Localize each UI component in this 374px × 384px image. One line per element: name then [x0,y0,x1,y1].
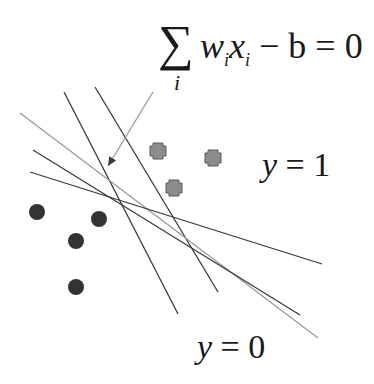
summation-index: i [174,70,180,96]
positive-point [166,180,182,196]
arrow-head-icon [108,156,116,166]
separating-hyperplanes [20,87,322,338]
weight-symbol: w [200,26,224,66]
positive-point [205,150,221,166]
arrow-shaft [108,92,153,166]
negative-point [68,279,84,295]
class-variable: y [262,146,277,183]
equation-body: wixi − b = 0 [200,26,363,80]
class-variable: y [197,328,212,365]
variable-symbol: x [229,26,245,66]
summation-symbol: ∑ [158,18,194,68]
positive-class-points [150,143,221,196]
negative-point [68,233,84,249]
class-value: = 0 [212,328,265,365]
hyperplane-line [64,92,178,314]
negative-point [29,204,45,220]
negative-class-label: y = 0 [197,328,265,366]
negative-point [91,211,107,227]
negative-class-points [29,204,107,295]
equation-rest: − b = 0 [250,26,363,66]
equation-pointer-arrow [108,92,153,166]
positive-class-label: y = 1 [262,146,330,184]
positive-point [150,143,166,159]
class-value: = 1 [277,146,330,183]
